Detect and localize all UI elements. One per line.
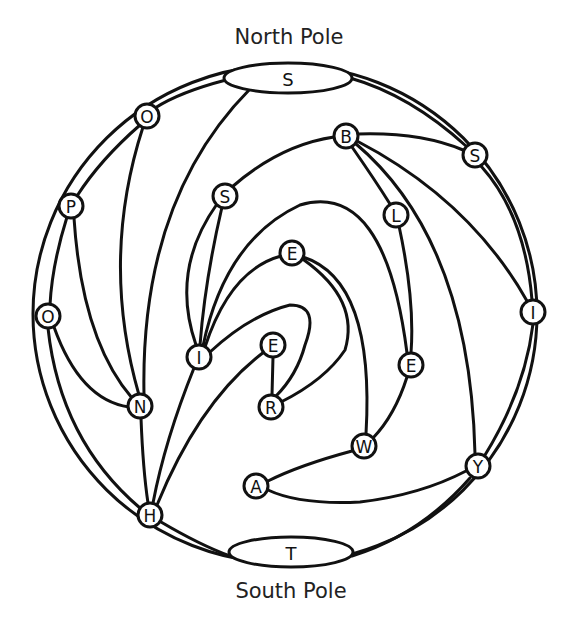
node-A: A: [244, 474, 268, 498]
node-letter: P: [66, 197, 76, 217]
node-letter: R: [265, 398, 277, 418]
node-letter: B: [340, 127, 352, 147]
node-letter: O: [140, 107, 153, 127]
north-pole-letter: S: [282, 69, 293, 90]
node-letter: W: [356, 437, 373, 457]
edge-B-S2: [358, 134, 463, 150]
edge-I1-E3: [203, 202, 407, 353]
node-letter: S: [220, 187, 231, 207]
edge-E1-W: [303, 257, 367, 434]
edge-E2-R: [272, 357, 273, 395]
north-pole: S: [224, 63, 352, 93]
node-E1: E: [280, 241, 304, 265]
edge-E3-W: [373, 377, 407, 438]
node-letter: E: [268, 336, 279, 356]
node-R: R: [259, 395, 283, 419]
node-W: W: [352, 434, 376, 458]
node-L: L: [384, 203, 408, 227]
node-E3: E: [399, 353, 423, 377]
node-letter: I: [196, 348, 201, 368]
north-pole-title: North Pole: [235, 25, 344, 49]
node-letter: L: [391, 206, 401, 226]
edge-B-Y: [355, 143, 475, 454]
node-I2: I: [521, 300, 545, 324]
node-O2: O: [36, 304, 60, 328]
node-letter: E: [287, 244, 298, 264]
edge-I1-H: [153, 368, 194, 503]
node-letter: I: [530, 303, 535, 323]
node-I1: I: [187, 345, 211, 369]
node-N: N: [128, 394, 152, 418]
edge-O2-N: [54, 327, 129, 407]
edge-O1-N: [120, 127, 143, 395]
node-letter: A: [250, 477, 262, 497]
edges-layer: [33, 65, 537, 563]
edge-S1-B: [232, 137, 334, 187]
south-pole-title: South Pole: [235, 579, 346, 603]
edge-I1-R: [210, 305, 310, 396]
node-letter: E: [406, 356, 417, 376]
south-pole-letter: T: [285, 543, 298, 564]
node-O1: O: [135, 104, 159, 128]
south-pole: T: [229, 537, 353, 567]
edge-H-SouthPole: [161, 522, 230, 556]
edge-SouthPole-Y: [352, 478, 470, 556]
node-S1: S: [213, 184, 237, 208]
node-Y: Y: [466, 454, 490, 478]
node-letter: S: [470, 146, 481, 166]
node-H: H: [138, 503, 162, 527]
node-S2: S: [463, 143, 487, 167]
node-letter: H: [144, 506, 157, 526]
node-E2: E: [261, 333, 285, 357]
edge-W-A: [268, 451, 352, 481]
node-letter: O: [41, 307, 54, 327]
edge-B-I2: [357, 141, 527, 301]
node-letter: N: [134, 397, 147, 417]
edge-P-O2: [50, 217, 67, 305]
nodes-layer: OPONHISBSLEEREWAYI: [36, 104, 545, 527]
edge-N-H: [141, 418, 148, 503]
edge-A-Y: [268, 471, 466, 503]
node-B: B: [334, 124, 358, 148]
node-P: P: [59, 194, 83, 218]
graph-diagram: North Pole South Pole S T OPONHISBSLEERE…: [0, 0, 578, 630]
node-letter: Y: [472, 457, 484, 477]
edge-O2-H: [48, 328, 140, 508]
